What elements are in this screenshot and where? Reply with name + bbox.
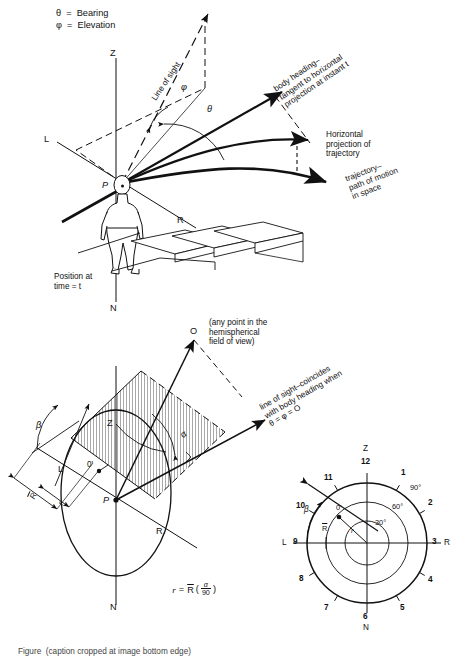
panel-clock-polar <box>293 473 441 613</box>
clock-point-o-prime <box>337 515 342 520</box>
person-figure <box>101 176 143 275</box>
o-prime-tick <box>99 465 108 471</box>
ray-body-heading-mid-dashed <box>194 340 242 397</box>
panel-middle-hemisphere <box>14 340 265 605</box>
angle-beta-arc-clock <box>307 502 322 543</box>
dim-tie-1 <box>14 443 40 478</box>
panel-top-3d-perspective <box>57 14 326 302</box>
